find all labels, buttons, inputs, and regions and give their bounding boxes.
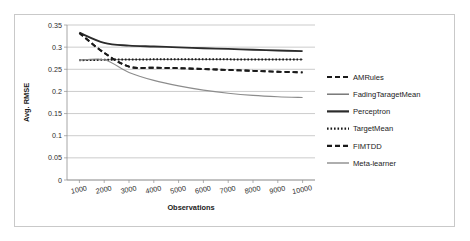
line-chart-plot: 00.050.10.150.20.250.30.3510002000300040… xyxy=(15,15,454,226)
y-tick-label: 0.1 xyxy=(52,131,62,140)
y-tick-label: 0.15 xyxy=(48,109,62,118)
y-tick-label: 0.35 xyxy=(48,21,62,30)
y-tick-label: 0.2 xyxy=(52,87,62,96)
y-tick-label: 0.25 xyxy=(48,65,62,74)
series-line-perceptron xyxy=(79,33,302,51)
x-tick-label: 9000 xyxy=(269,183,287,195)
chart-frame: 00.050.10.150.20.250.30.3510002000300040… xyxy=(14,14,455,227)
y-axis-title: Avg. RMSE xyxy=(22,83,31,122)
x-tick-label: 2000 xyxy=(95,183,113,195)
y-tick-label: 0 xyxy=(58,176,62,185)
series-line-fimtdd xyxy=(79,33,302,72)
x-tick-label: 7000 xyxy=(219,183,237,195)
x-tick-label: 1000 xyxy=(70,183,88,195)
x-tick-label: 10000 xyxy=(291,183,312,196)
legend-label-meta-learner: Meta-learner xyxy=(353,159,397,168)
x-axis-title: Observations xyxy=(167,203,214,212)
series-line-amrules xyxy=(79,33,302,72)
x-tick-label: 4000 xyxy=(145,183,163,195)
y-tick-label: 0.05 xyxy=(48,153,62,162)
x-tick-label: 6000 xyxy=(194,183,212,195)
x-tick-label: 3000 xyxy=(120,183,138,195)
chart-root: 00.050.10.150.20.250.30.3510002000300040… xyxy=(0,0,470,241)
legend-label-fadingtaragetmean: FadingTaragetMean xyxy=(353,90,421,99)
x-tick-label: 5000 xyxy=(169,183,187,195)
y-tick-label: 0.3 xyxy=(52,43,62,52)
legend-label-amrules: AMRules xyxy=(353,73,384,82)
legend-label-fimtdd: FIMTDD xyxy=(353,142,382,151)
x-tick-label: 8000 xyxy=(244,183,262,195)
legend-label-targetmean: TargetMean xyxy=(353,124,393,133)
legend-label-perceptron: Perceptron xyxy=(353,107,390,116)
